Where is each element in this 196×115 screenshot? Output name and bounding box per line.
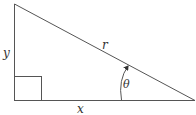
label-x: x (77, 102, 84, 115)
label-r: r (102, 38, 109, 52)
label-theta: θ (123, 78, 130, 91)
right-angle-marker (15, 77, 42, 101)
right-triangle-diagram: y x r θ (0, 0, 196, 115)
label-y: y (2, 46, 10, 60)
